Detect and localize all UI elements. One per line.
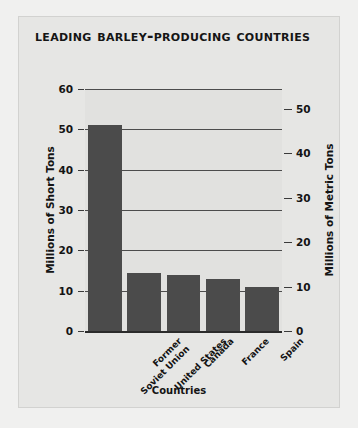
y-tick-right [284, 109, 292, 110]
y-tick-right [284, 242, 292, 243]
y-tick-label-right: 50 [296, 103, 311, 115]
plot-area: 0102030405060 01020304050 FormerSoviet U… [85, 89, 282, 331]
bar [127, 273, 161, 331]
y-tick-label-left: 20 [58, 244, 73, 256]
x-tick-label: France [240, 336, 272, 368]
y-tick-left [78, 129, 84, 130]
y-tick-label-left: 40 [58, 164, 73, 176]
y-tick-right [284, 198, 292, 199]
y-axis-title-left: Millions of Short Tons [44, 146, 56, 274]
y-tick-left [78, 210, 84, 211]
y-tick-label-right: 40 [296, 147, 311, 159]
y-tick-left [78, 291, 84, 292]
y-tick-label-left: 10 [58, 285, 73, 297]
bar-series [85, 89, 282, 331]
y-tick-label-left: 0 [66, 325, 73, 337]
y-tick-label-right: 30 [296, 192, 311, 204]
x-tick-label-line: Spain [278, 336, 306, 364]
chart-title: Leading Barley-Producing Countries [35, 27, 325, 46]
y-tick-label-right: 20 [296, 236, 311, 248]
chart-panel: Leading Barley-Producing Countries Milli… [18, 16, 340, 408]
y-tick-label-left: 30 [58, 204, 73, 216]
bar [245, 287, 279, 331]
x-tick-label: Spain [278, 336, 306, 364]
y-tick-label-left: 60 [58, 83, 73, 95]
y-tick-right [284, 153, 292, 154]
gridline [85, 331, 282, 333]
y-axis-title-right: Millions of Metric Tons [323, 144, 335, 277]
y-tick-right [284, 331, 292, 332]
y-tick-label-right: 0 [296, 325, 303, 337]
y-tick-left [78, 331, 84, 332]
y-tick-left [78, 250, 84, 251]
y-tick-right [284, 287, 292, 288]
x-tick-label-line: France [240, 336, 272, 368]
bar [88, 125, 122, 331]
bar [167, 275, 201, 331]
y-tick-label-right: 10 [296, 281, 311, 293]
bar [206, 279, 240, 331]
y-tick-left [78, 170, 84, 171]
y-tick-left [78, 89, 84, 90]
y-tick-label-left: 50 [58, 123, 73, 135]
